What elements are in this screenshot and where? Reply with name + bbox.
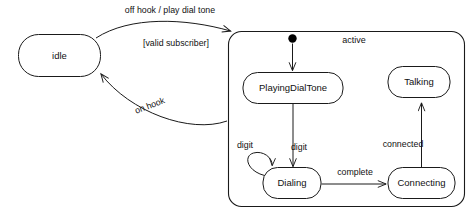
state-connecting-label: Connecting xyxy=(397,177,445,188)
initial-pseudostate[interactable] xyxy=(288,34,296,42)
state-talking[interactable]: Talking xyxy=(388,67,450,98)
state-playingdialtone-label: PlayingDialTone xyxy=(259,82,327,93)
state-active-label: active xyxy=(342,35,366,45)
transition-connecting-to-talking-label: connected xyxy=(383,139,424,149)
transition-dialing-self-loop-label: digit xyxy=(237,140,254,150)
transition-playingdialtone-to-dialing-label: digit xyxy=(291,142,308,152)
state-idle-label: idle xyxy=(52,50,67,61)
state-playingdialtone[interactable]: PlayingDialTone xyxy=(243,73,343,104)
initial-pseudostate-dot xyxy=(288,34,296,42)
state-talking-label: Talking xyxy=(404,76,434,87)
transition-dialing-to-connecting-label: complete xyxy=(337,167,373,177)
state-diagram-svg: active PlayingDialTone digit Dialing dig… xyxy=(0,0,473,224)
state-idle[interactable]: idle xyxy=(19,35,101,77)
transition-idle-to-active-guard: [valid subscriber] xyxy=(143,38,209,48)
state-diagram-canvas: active PlayingDialTone digit Dialing dig… xyxy=(0,0,473,224)
state-dialing-label: Dialing xyxy=(277,177,306,188)
state-connecting[interactable]: Connecting xyxy=(388,168,455,199)
transition-idle-to-active xyxy=(96,21,231,38)
state-dialing[interactable]: Dialing xyxy=(263,168,321,199)
transition-idle-to-active-label: off hook / play dial tone xyxy=(125,5,215,15)
